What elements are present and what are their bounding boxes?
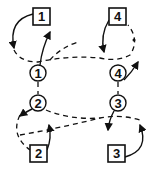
- circle-label-3: 3: [114, 96, 121, 111]
- dashed-path-bottom: [20, 118, 100, 135]
- arrow-square3-to-loop: [125, 125, 143, 157]
- circle-label-2: 2: [34, 96, 41, 111]
- solid-arrows: [13, 14, 143, 157]
- circle-label-4: 4: [114, 66, 122, 81]
- circle-node-2: 2: [30, 95, 46, 111]
- square-label-4: 4: [114, 9, 122, 24]
- circle-node-4: 4: [110, 65, 126, 81]
- square-node-4: 4: [109, 8, 126, 25]
- dashed-connections: [14, 25, 140, 150]
- circle-node-1: 1: [30, 65, 46, 81]
- square-label-3: 3: [113, 146, 120, 161]
- arrow-square4-to-loop: [103, 20, 109, 52]
- cycle-diagram: 1 2 3 4 1 2 3 4: [0, 0, 159, 175]
- square-label-2: 2: [35, 146, 42, 161]
- square-label-1: 1: [38, 9, 45, 24]
- dashed-path-middle: [46, 110, 140, 120]
- square-node-1: 1: [33, 8, 50, 25]
- square-node-3: 3: [108, 145, 125, 162]
- arrow-square1-to-loop: [13, 14, 33, 48]
- dot-marker: [133, 39, 136, 42]
- circle-node-3: 3: [110, 95, 126, 111]
- square-node-2: 2: [30, 145, 47, 162]
- circle-label-1: 1: [34, 66, 41, 81]
- arrow-circle2-out: [20, 109, 32, 116]
- arrow-circle3-out: [108, 111, 114, 130]
- dashed-path-bottom-left: [17, 115, 30, 150]
